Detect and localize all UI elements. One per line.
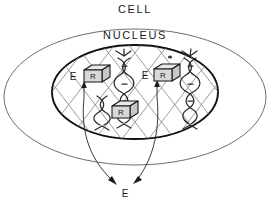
enzyme-label-right: E: [142, 70, 149, 81]
receptor-cube-left: R: [84, 65, 110, 82]
diagram-canvas: CELL NUCLEUS: [0, 0, 270, 204]
enzyme-label-left: E: [70, 71, 77, 82]
cell-nucleus-diagram: CELL NUCLEUS: [0, 0, 270, 204]
receptor-cube-left-label: R: [90, 72, 96, 81]
callout-label-bottom: E: [122, 188, 129, 199]
receptor-cube-right-label: R: [160, 71, 166, 80]
receptor-cube-right: R: [154, 64, 180, 81]
receptor-cube-center: R: [112, 101, 138, 118]
receptor-cube-center-label: R: [118, 108, 124, 117]
nucleolus-dot: [168, 55, 172, 58]
cell-label: CELL: [118, 3, 152, 15]
nucleus-label: NUCLEUS: [103, 29, 167, 41]
